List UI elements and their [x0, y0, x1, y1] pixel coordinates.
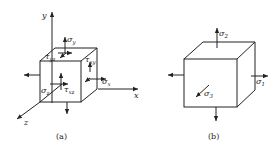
sigma-y-label: σy	[67, 35, 76, 46]
caption-a: (a)	[56, 132, 67, 141]
z-axis	[17, 102, 40, 119]
caption-b: (b)	[208, 132, 219, 141]
x-axis-label: x	[134, 91, 139, 100]
sigma-3-label: σ3	[204, 89, 213, 99]
tau-xz-side-arrow	[85, 78, 90, 82]
tau-xz-label: τxz	[64, 85, 75, 95]
sigma-x-label: σx	[102, 77, 111, 87]
z-axis-label: z	[23, 118, 29, 127]
sigma-z-label: σz	[41, 86, 49, 96]
stress-element-diagram: y x z σy τyz τxy σx σz τxz (a) σ2 σ1 σ3 …	[0, 0, 280, 150]
figure-b: σ2 σ1 σ3 (b)	[168, 28, 268, 141]
y-axis-label: y	[41, 11, 47, 20]
tau-xy-label: τxy	[85, 55, 97, 66]
tau-yz-arrow	[60, 53, 66, 58]
sigma-2-label: σ2	[219, 29, 228, 39]
figure-a: y x z σy τyz τxy σx σz τxz (a)	[17, 11, 139, 141]
sigma-1-label: σ1	[256, 77, 265, 87]
cube-b	[184, 42, 255, 107]
